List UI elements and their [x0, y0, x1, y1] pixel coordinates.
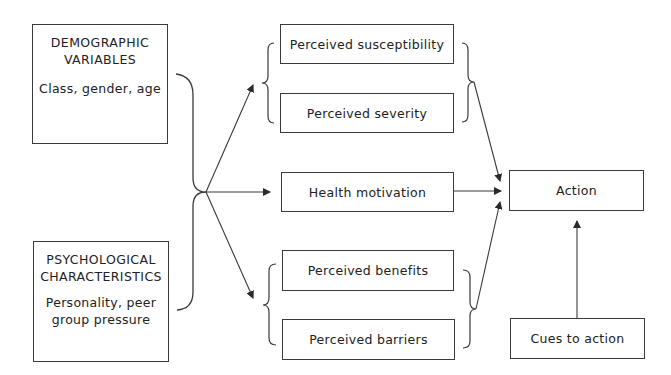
- evaluation-group-right-brace: [463, 270, 476, 348]
- perceived-benefits-label: Perceived benefits: [308, 263, 429, 278]
- perceived-severity-box: Perceived severity: [280, 93, 454, 133]
- perceived-barriers-box: Perceived barriers: [282, 319, 455, 360]
- demographic-variables-box: DEMOGRAPHIC VARIABLES Class, gender, age: [32, 24, 168, 144]
- perceived-severity-label: Perceived severity: [307, 106, 427, 121]
- health-belief-model-diagram: DEMOGRAPHIC VARIABLES Class, gender, age…: [0, 0, 671, 375]
- psychological-heading-line1: PSYCHOLOGICAL: [46, 251, 156, 268]
- threat-group-right-brace: [462, 43, 474, 122]
- arrow-to-threat-group: [206, 85, 253, 192]
- left-brace: [176, 74, 206, 310]
- arrow-evaluation-to-action: [476, 202, 500, 309]
- arrow-threat-to-action: [474, 82, 500, 181]
- demographic-detail: Class, gender, age: [39, 80, 161, 97]
- perceived-susceptibility-box: Perceived susceptibility: [280, 24, 454, 64]
- cues-to-action-label: Cues to action: [530, 331, 624, 346]
- evaluation-group-left-brace: [263, 264, 276, 345]
- cues-to-action-box: Cues to action: [510, 318, 645, 359]
- perceived-barriers-label: Perceived barriers: [309, 332, 428, 347]
- psychological-detail-line1: Personality, peer: [46, 294, 156, 311]
- perceived-benefits-box: Perceived benefits: [282, 250, 454, 291]
- arrow-to-evaluation-group: [206, 192, 253, 298]
- demographic-heading-line1: DEMOGRAPHIC: [51, 34, 149, 51]
- psychological-characteristics-box: PSYCHOLOGICAL CHARACTERISTICS Personalit…: [33, 241, 169, 362]
- action-box: Action: [509, 170, 644, 211]
- psychological-detail-line2: group pressure: [52, 311, 150, 328]
- threat-group-left-brace: [262, 43, 274, 123]
- demographic-heading-line2: VARIABLES: [64, 51, 136, 68]
- psychological-heading-line2: CHARACTERISTICS: [40, 268, 162, 285]
- health-motivation-label: Health motivation: [309, 185, 426, 200]
- perceived-susceptibility-label: Perceived susceptibility: [290, 37, 444, 52]
- health-motivation-box: Health motivation: [281, 172, 454, 212]
- action-label: Action: [556, 183, 597, 198]
